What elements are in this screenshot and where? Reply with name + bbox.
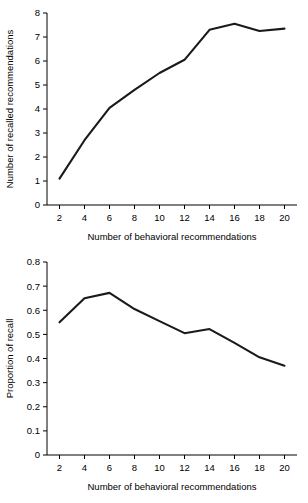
y-tick-label: 2 <box>35 151 40 162</box>
y-tick-label: 0.4 <box>27 353 40 364</box>
y-tick-label: 0.7 <box>27 281 40 292</box>
x-tick-label: 4 <box>82 462 87 473</box>
y-tick-label: 0.6 <box>27 305 40 316</box>
x-tick-label: 12 <box>179 462 190 473</box>
x-tick-label: 10 <box>154 212 165 223</box>
y-tick-label: 0.2 <box>27 401 40 412</box>
x-tick-label: 8 <box>132 462 137 473</box>
x-tick-label: 18 <box>254 212 265 223</box>
chart-bottom-canvas: 00.10.20.30.40.50.60.70.8246810121416182… <box>0 250 308 503</box>
y-tick-label: 1 <box>35 175 40 186</box>
data-series-line <box>60 24 285 179</box>
x-tick-label: 8 <box>132 212 137 223</box>
y-tick-label: 0.8 <box>27 256 40 267</box>
y-tick-label: 0 <box>35 449 40 460</box>
chart-recalled-recommendations: 0123456782468101214161820Number of behav… <box>0 0 308 250</box>
y-tick-label: 0.5 <box>27 329 40 340</box>
chart-top-canvas: 0123456782468101214161820Number of behav… <box>0 0 308 250</box>
x-tick-label: 10 <box>154 462 165 473</box>
data-series-line <box>60 293 285 366</box>
y-tick-label: 6 <box>35 55 40 66</box>
x-tick-label: 20 <box>279 212 290 223</box>
x-tick-label: 2 <box>57 462 62 473</box>
x-tick-label: 14 <box>204 212 215 223</box>
x-tick-label: 6 <box>107 462 112 473</box>
x-tick-label: 4 <box>82 212 87 223</box>
x-tick-label: 16 <box>229 212 240 223</box>
x-axis-title: Number of behavioral recommendations <box>88 231 257 242</box>
x-tick-label: 6 <box>107 212 112 223</box>
y-tick-label: 8 <box>35 7 40 18</box>
chart-proportion-of-recall: 00.10.20.30.40.50.60.70.8246810121416182… <box>0 250 308 503</box>
x-tick-label: 12 <box>179 212 190 223</box>
y-tick-label: 4 <box>35 103 40 114</box>
x-tick-label: 2 <box>57 212 62 223</box>
x-tick-label: 20 <box>279 462 290 473</box>
y-axis-title: Number of recalled recommendations <box>4 30 15 189</box>
y-tick-label: 7 <box>35 31 40 42</box>
x-tick-label: 14 <box>204 462 215 473</box>
y-tick-label: 0.3 <box>27 377 40 388</box>
x-axis-title: Number of behavioral recommendations <box>88 481 257 492</box>
y-tick-label: 3 <box>35 127 40 138</box>
y-tick-label: 5 <box>35 79 40 90</box>
y-tick-label: 0.1 <box>27 425 40 436</box>
x-tick-label: 18 <box>254 462 265 473</box>
y-tick-label: 0 <box>35 199 40 210</box>
x-tick-label: 16 <box>229 462 240 473</box>
y-axis-title: Proportion of recall <box>4 319 15 399</box>
